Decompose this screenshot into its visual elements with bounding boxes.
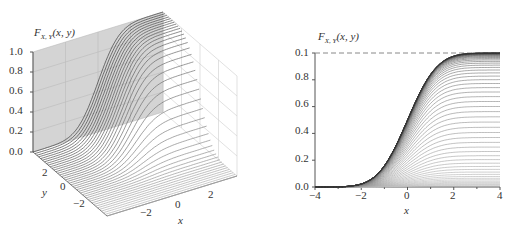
y-tick-0.6: 0.6: [295, 97, 309, 109]
z-tick-0.2: 0.2: [9, 124, 23, 136]
z-tick-0.0: 0.0: [9, 145, 23, 157]
x-axis-label: x: [178, 214, 183, 226]
y-tick-0.4: 0.4: [295, 124, 309, 136]
y-tick-neg2: −2: [73, 197, 85, 209]
cdf-curves-canvas: [257, 0, 514, 236]
z-tick-0.6: 0.6: [9, 84, 23, 96]
x-tick-0: 0: [404, 189, 410, 201]
x-tick-0: 0: [175, 198, 181, 210]
y-tick-2: 2: [42, 166, 48, 178]
x-tick-neg4: −4: [309, 189, 321, 201]
surface-plot-3d: FX, Y(x, y) 1.0 0.8 0.6 0.4 0.2 0.0 2 0 …: [0, 0, 257, 236]
x-tick-neg2: −2: [355, 189, 367, 201]
cdf-curves-plot: FX, Y(x, y) 0.1 0.8 0.6 0.4 0.2 0.0 −4 −…: [257, 0, 514, 236]
z-tick-0.8: 0.8: [9, 64, 23, 76]
z-tick-0.4: 0.4: [9, 104, 23, 116]
y-tick-top: 0.1: [295, 46, 309, 58]
z-axis-label: FX, Y(x, y): [34, 26, 75, 41]
x-tick-2: 2: [450, 189, 456, 201]
x-axis-label: x: [404, 204, 409, 216]
x-tick-2: 2: [208, 188, 214, 200]
z-tick-1.0: 1.0: [9, 45, 23, 57]
y-axis-label: y: [42, 186, 47, 198]
y-tick-0: 0: [60, 180, 66, 192]
y-tick-0.2: 0.2: [295, 152, 309, 164]
y-tick-0.0: 0.0: [295, 180, 309, 192]
y-tick-0.8: 0.8: [295, 70, 309, 82]
y-axis-label: FX, Y(x, y): [318, 30, 359, 45]
x-tick-4: 4: [497, 189, 503, 201]
x-tick-neg2: −2: [140, 206, 152, 218]
